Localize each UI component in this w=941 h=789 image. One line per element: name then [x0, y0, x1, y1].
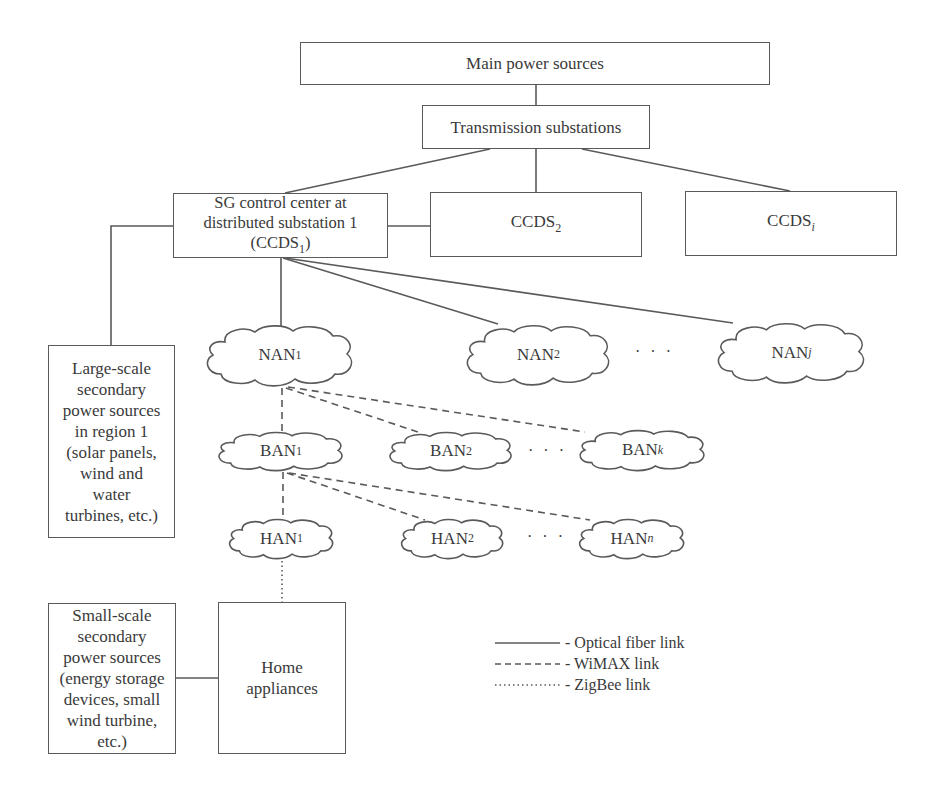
nan-ellipsis: · · ·: [635, 343, 674, 361]
large-scale-sources-label: Large-scale secondary power sources in r…: [63, 358, 161, 526]
hann-cloud: HANn: [578, 517, 686, 560]
small-scale-sources-label: Small-scale secondary power sources (ene…: [60, 605, 165, 752]
bank-cloud: BANk: [578, 428, 707, 472]
link-ban1-hann: [289, 473, 590, 520]
link-transmission-ccds1: [285, 149, 490, 193]
link-ccds1-nan2: [283, 258, 498, 324]
ccdsi-box: CCDSi: [685, 191, 897, 256]
ccds2-label: CCDS2: [511, 211, 561, 239]
transmission-substations-box: Transmission substations: [422, 105, 650, 149]
link-nan1-ban2: [286, 388, 418, 432]
ccds2-box: CCDS2: [430, 192, 642, 257]
link-ban1-han2: [287, 473, 425, 520]
ban2-cloud: BAN2: [388, 430, 514, 472]
han1-cloud: HAN1: [228, 517, 335, 560]
ccds1-label: SG control center at distributed substat…: [204, 193, 358, 259]
large-scale-sources-box: Large-scale secondary power sources in r…: [48, 345, 175, 538]
link-ccds1-nanj: [285, 258, 733, 323]
ccdsi-label: CCDSi: [767, 210, 815, 238]
link-ccds1-large-scale: [111, 226, 173, 345]
nan2-cloud: NAN2: [465, 322, 612, 387]
home-appliances-label: Home appliances: [246, 657, 318, 699]
ban-ellipsis: · · ·: [528, 442, 567, 460]
link-nan1-bank: [288, 387, 585, 432]
han-ellipsis: · · ·: [527, 528, 566, 546]
nanj-cloud: NANj: [716, 320, 867, 385]
main-power-sources-box: Main power sources: [300, 42, 770, 85]
legend-item-wimax: - WiMAX link: [495, 654, 659, 674]
transmission-substations-label: Transmission substations: [451, 117, 622, 138]
legend-item-zigbee: - ZigBee link: [495, 675, 650, 695]
small-scale-sources-box: Small-scale secondary power sources (ene…: [48, 603, 176, 754]
ccds1-box: SG control center at distributed substat…: [173, 193, 388, 258]
ban1-cloud: BAN1: [217, 430, 345, 472]
han2-cloud: HAN2: [400, 517, 505, 560]
legend-item-optical-fiber: - Optical fiber link: [495, 633, 685, 653]
link-transmission-ccdsi: [582, 149, 790, 191]
nan1-cloud: NAN1: [205, 322, 355, 388]
home-appliances-box: Home appliances: [218, 602, 346, 754]
main-power-sources-label: Main power sources: [466, 53, 604, 74]
